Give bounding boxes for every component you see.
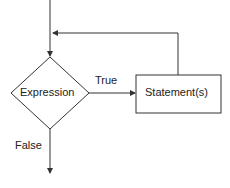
decision-label: Expression <box>20 86 74 98</box>
process-label: Statement(s) <box>145 86 208 98</box>
true-label: True <box>95 74 117 86</box>
false-label: False <box>15 139 42 151</box>
loop-back-line <box>53 33 178 75</box>
